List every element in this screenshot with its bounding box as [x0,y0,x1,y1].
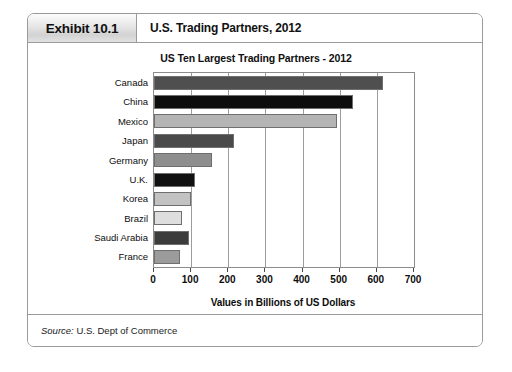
y-axis-label: China [123,97,154,107]
source-note: Source: U.S. Dept of Commerce [41,325,177,336]
x-axis-tick [339,268,340,272]
y-axis-label: France [118,252,154,262]
y-axis-label: Germany [109,156,154,166]
x-axis-tick-label: 500 [330,274,347,285]
bar [154,250,180,264]
source-value: U.S. Dept of Commerce [74,325,177,336]
y-axis-label: U.K. [130,175,154,185]
bar [154,95,353,109]
x-axis-tick [413,268,414,272]
x-axis-tick-label: 600 [368,274,385,285]
x-axis-tick-label: 700 [405,274,422,285]
exhibit-title: U.S. Trading Partners, 2012 [150,21,301,35]
bar [154,134,234,148]
x-axis-tick-label: 100 [182,274,199,285]
x-axis-tick-label: 0 [150,274,156,285]
bar [154,76,383,90]
bar-row: Brazil [154,209,414,228]
source-label: Source: [41,325,74,336]
chart-title: US Ten Largest Trading Partners - 2012 [28,52,484,64]
bar [154,211,182,225]
bar [154,153,212,167]
bar [154,114,337,128]
bar-row: Mexico [154,112,414,131]
bar [154,231,189,245]
bar-series: CanadaChinaMexicoJapanGermanyU.K.KoreaBr… [154,73,414,267]
x-axis-tick [153,268,154,272]
x-axis-tick-label: 200 [219,274,236,285]
x-axis-title: Values in Billions of US Dollars [153,297,413,308]
bar-row: France [154,248,414,267]
x-axis-tick-label: 300 [256,274,273,285]
y-axis-label: Japan [122,136,154,146]
exhibit-header: Exhibit 10.1 U.S. Trading Partners, 2012 [28,14,482,43]
y-axis-label: Canada [115,78,154,88]
plot-area: CanadaChinaMexicoJapanGermanyU.K.KoreaBr… [153,72,415,268]
bar-row: China [154,92,414,111]
bar-row: Korea [154,189,414,208]
bar-chart: US Ten Largest Trading Partners - 2012 C… [28,43,484,316]
exhibit-title-cell: U.S. Trading Partners, 2012 [137,14,482,42]
exhibit-frame: Exhibit 10.1 U.S. Trading Partners, 2012… [27,13,483,347]
bar-row: Germany [154,151,414,170]
x-axis-tick [227,268,228,272]
x-axis-tick [264,268,265,272]
exhibit-number-label: Exhibit 10.1 [46,21,119,36]
x-axis-tick [376,268,377,272]
bar-row: Japan [154,131,414,150]
bar [154,173,195,187]
x-axis-tick-label: 400 [293,274,310,285]
x-axis-tick [302,268,303,272]
exhibit-footer: Source: U.S. Dept of Commerce [28,314,482,346]
exhibit-body: US Ten Largest Trading Partners - 2012 C… [28,43,482,314]
exhibit-number-box: Exhibit 10.1 [28,14,137,42]
bar-row: Canada [154,73,414,92]
y-axis-label: Saudi Arabia [94,233,154,243]
y-axis-label: Brazil [124,214,154,224]
bar-row: Saudi Arabia [154,228,414,247]
bar [154,192,191,206]
bar-row: U.K. [154,170,414,189]
x-axis-tick [190,268,191,272]
y-axis-label: Korea [123,194,154,204]
y-axis-label: Mexico [118,117,154,127]
